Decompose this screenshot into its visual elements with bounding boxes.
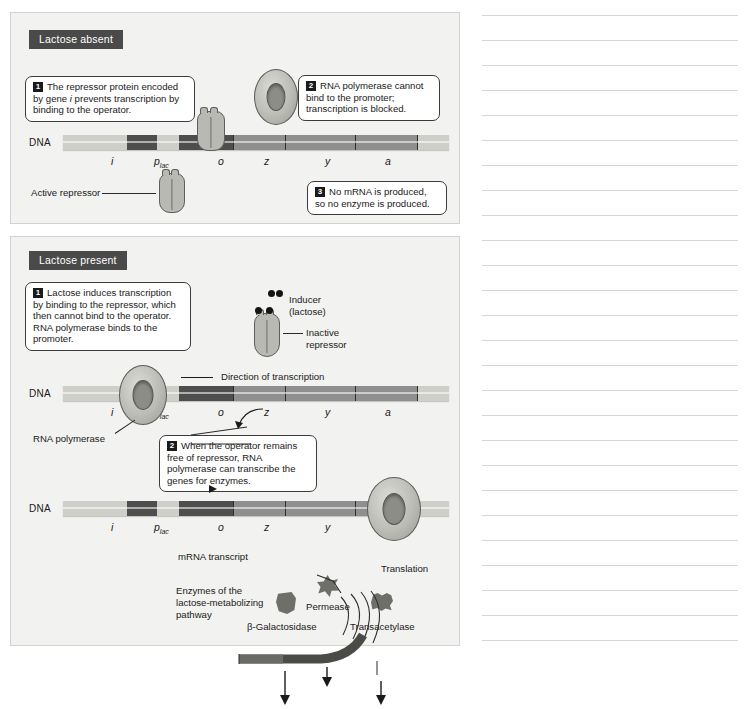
- bound-repressor-protein: [197, 111, 225, 151]
- inducer-bound-left: [255, 307, 262, 314]
- dna-strand-absent: [63, 135, 449, 150]
- label-translation: Translation: [381, 563, 428, 575]
- note-rule-line: [482, 415, 738, 416]
- gene-o-absent: o: [218, 155, 224, 167]
- callout-2-text-absent: RNA polymerase cannot bind to the promot…: [306, 80, 423, 114]
- note-rule-line: [482, 290, 738, 291]
- callout-2-lactose-absent: 2RNA polymerase cannot bind to the promo…: [298, 75, 440, 121]
- permease-shape: [317, 575, 339, 597]
- note-rule-line: [482, 340, 738, 341]
- arrowhead-permease: [322, 677, 332, 687]
- label-transacetylase: Transacetylase: [350, 621, 415, 633]
- arrowhead-beta-galactosidase: [280, 695, 290, 705]
- note-rule-line: [482, 90, 738, 91]
- inducer-arrow-head: [235, 421, 243, 429]
- panel-title-lactose-present: Lactose present: [29, 251, 127, 270]
- arrowhead-transacetylase: [376, 695, 386, 705]
- note-rule-line: [482, 440, 738, 441]
- mrna-ribbon: [239, 635, 363, 659]
- note-rule-line: [482, 615, 738, 616]
- gene-i-present-bottom: i: [111, 521, 113, 533]
- dna-label-present-top: DNA: [29, 388, 51, 399]
- note-rule-line: [482, 240, 738, 241]
- note-rule-line: [482, 465, 738, 466]
- repressor-bump-left-free: [162, 169, 170, 175]
- label-beta-galactosidase: β-Galactosidase: [247, 621, 317, 633]
- inducer-dot-right: [276, 290, 283, 297]
- note-rule-line: [482, 315, 738, 316]
- callout-3-text-absent: No mRNA is produced, so no enzyme is pro…: [315, 186, 430, 209]
- panel-lactose-present: Lactose present 1Lactose induces transcr…: [10, 236, 460, 646]
- note-rule-line: [482, 115, 738, 116]
- callout-1-number-present: 1: [33, 288, 43, 298]
- callout-1-text-present: Lactose induces transcription by binding…: [33, 287, 176, 344]
- gene-p-absent: plac: [154, 155, 169, 169]
- label-permease: Permease: [306, 601, 350, 613]
- repressor-bump-right-bound: [210, 107, 218, 113]
- inactive-repressor-leader: [283, 333, 303, 334]
- notes-column: [474, 0, 748, 659]
- repressor-bump-left-bound: [200, 107, 208, 113]
- panel-lactose-absent: Lactose absent DNA i plac o z: [10, 12, 460, 224]
- rna-polymerase-on-promoter: [119, 365, 167, 425]
- note-rule-line: [482, 565, 738, 566]
- label-active-repressor: Active repressor: [31, 187, 100, 199]
- gene-z-present-bottom: z: [264, 521, 269, 533]
- callout1-pointer-present-2: [191, 427, 247, 435]
- gene-i-present-top: i: [111, 406, 113, 418]
- label-inducer-line1: Inducer: [289, 294, 321, 306]
- note-rule-line: [482, 390, 738, 391]
- gene-i-absent: i: [111, 155, 113, 167]
- label-enzymes-line3: pathway: [176, 609, 212, 621]
- active-repressor-leader: [102, 193, 156, 194]
- gene-o-present-top: o: [218, 406, 224, 418]
- note-rule-line: [482, 65, 738, 66]
- transacetylase-shape: [371, 593, 393, 611]
- gene-o-present-bottom: o: [218, 521, 224, 533]
- callout-1-lactose-present: 1Lactose induces transcription by bindin…: [25, 282, 191, 351]
- inducer-bound-right: [266, 307, 273, 314]
- note-rule-line: [482, 365, 738, 366]
- note-rule-line: [482, 640, 738, 641]
- callout-1-number-absent: 1: [33, 82, 43, 92]
- note-rule-line: [482, 40, 738, 41]
- rna-polymerase-blocked: [254, 69, 298, 125]
- callout-2-number-absent: 2: [306, 81, 316, 91]
- gene-z-present-top: z: [264, 406, 269, 418]
- dna-label-absent: DNA: [29, 137, 51, 148]
- gene-z-absent: z: [264, 155, 269, 167]
- note-rule-line: [482, 515, 738, 516]
- note-rule-line: [482, 15, 738, 16]
- callout-2-text-present: When the operator remains free of repres…: [167, 440, 297, 486]
- label-mrna-transcript: mRNA transcript: [178, 551, 248, 563]
- dna-label-present-bottom: DNA: [29, 503, 51, 514]
- callout-3-lactose-absent: 3No mRNA is produced, so no enzyme is pr…: [307, 181, 447, 215]
- note-rule-line: [482, 140, 738, 141]
- callout-3-number-absent: 3: [315, 187, 325, 197]
- direction-arrow-shaft: [181, 377, 213, 378]
- transcription-wave-3: [361, 592, 370, 641]
- label-enzymes-line2: lactose-metabolizing: [176, 597, 263, 609]
- gene-y-present-top: y: [325, 406, 330, 418]
- gene-y-present-bottom: y: [325, 521, 330, 533]
- gene-y-absent: y: [325, 155, 330, 167]
- gene-a-absent: a: [385, 155, 391, 167]
- note-rule-line: [482, 265, 738, 266]
- note-rule-line: [482, 490, 738, 491]
- label-rna-polymerase: RNA polymerase: [33, 433, 105, 445]
- gene-p-present-bottom: plac: [154, 521, 169, 535]
- gene-a-present-top: a: [385, 406, 391, 418]
- note-rule-line: [482, 190, 738, 191]
- note-rule-line: [482, 540, 738, 541]
- label-inactive-repressor-line2: repressor: [306, 339, 347, 351]
- gene-p-sub-3: lac: [160, 528, 169, 535]
- rna-polymerase-leader: [115, 420, 135, 434]
- note-rule-line: [482, 590, 738, 591]
- beta-galactosidase-shape: [276, 592, 296, 614]
- note-rule-line: [482, 215, 738, 216]
- label-inducer-line2: (lactose): [289, 306, 326, 318]
- figure-column: Lactose absent DNA i plac o z: [10, 12, 460, 646]
- rna-polymerase-transcribing: [367, 477, 421, 541]
- panel-title-lactose-absent: Lactose absent: [29, 30, 123, 49]
